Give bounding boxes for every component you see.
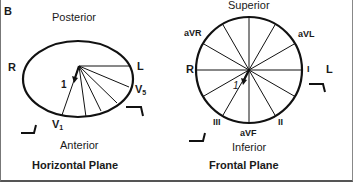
horizontal-right-label: R (8, 62, 16, 73)
lead-ii-label: II (278, 118, 283, 127)
posterior-label: Posterior (52, 12, 96, 23)
superior-label: Superior (228, 0, 270, 11)
lead-v5-label: V5 (135, 84, 146, 96)
horizontal-left-label: L (137, 61, 144, 72)
panel-label: B (4, 6, 12, 17)
lead-v1-label: V1 (52, 119, 63, 131)
frontal-plane-title: Frontal Plane (209, 160, 279, 171)
frontal-left-label: L (326, 64, 333, 75)
diagram-graphics (0, 0, 355, 184)
anterior-label: Anterior (60, 140, 99, 151)
frontal-right-label: R (186, 64, 194, 75)
horizontal-vector-label: 1 (61, 80, 67, 90)
lead-iii-label: III (213, 118, 221, 127)
lead-avf-label: aVF (240, 129, 257, 138)
lead-i-label: I (307, 65, 310, 74)
lead-avr-label: aVR (184, 29, 202, 38)
frontal-vector-label: 1 (233, 81, 239, 91)
inferior-label: Inferior (232, 142, 266, 153)
lead-avl-label: aVL (298, 30, 315, 39)
horizontal-plane-title: Horizontal Plane (32, 160, 118, 171)
horizontal-plane-diagram (21, 41, 143, 133)
